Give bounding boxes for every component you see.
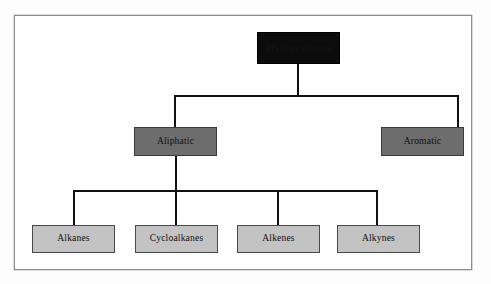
node-aromatic: Aromatic — [381, 127, 464, 156]
node-aromatic-label: Aromatic — [404, 137, 441, 147]
node-alkynes-label: Alkynes — [362, 234, 395, 244]
node-root-hydrocarbons: Hydrocarbons — [257, 32, 340, 64]
connector-drop-aliphatic — [174, 95, 176, 127]
node-alkanes-label: Alkanes — [57, 234, 90, 244]
node-alkenes-label: Alkenes — [262, 234, 295, 244]
node-cycloalkanes: Cycloalkanes — [135, 225, 218, 253]
connector-drop-alkenes — [277, 190, 279, 225]
connector-drop-alkynes — [376, 190, 378, 225]
node-aliphatic: Aliphatic — [134, 127, 217, 156]
node-alkynes: Alkynes — [337, 225, 420, 253]
diagram-page: Hydrocarbons Aliphatic Aromatic Alkanes … — [0, 0, 491, 284]
diagram-frame: Hydrocarbons Aliphatic Aromatic Alkanes … — [14, 15, 472, 270]
connector-drop-cycloalkanes — [175, 190, 177, 225]
node-alkanes: Alkanes — [32, 225, 115, 253]
node-root-label: Hydrocarbons — [266, 42, 331, 54]
connector-drop-alkanes — [73, 190, 75, 225]
connector-aliphatic-stem — [175, 156, 177, 191]
connector-root-stem — [297, 64, 299, 96]
node-cycloalkanes-label: Cycloalkanes — [150, 234, 204, 244]
node-aliphatic-label: Aliphatic — [157, 137, 194, 147]
connector-drop-aromatic — [457, 95, 459, 127]
connector-level2-bus — [174, 95, 459, 97]
connector-level3-bus — [73, 190, 378, 192]
node-alkenes: Alkenes — [237, 225, 320, 253]
